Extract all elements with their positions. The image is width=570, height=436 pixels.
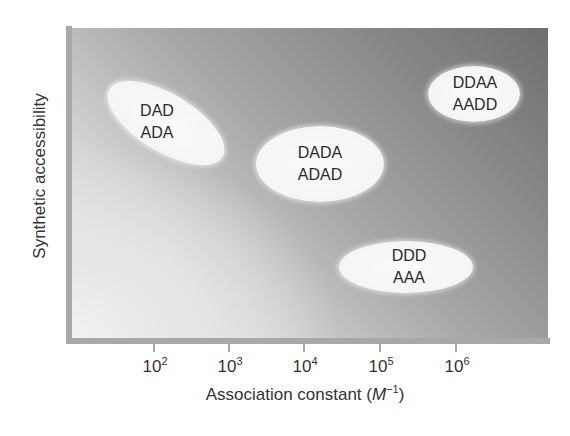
region-dada-adad-line1: DADA [298,142,342,164]
tick-exponent: 4 [311,355,317,367]
tick-exponent: 5 [387,355,393,367]
region-ddaa-aadd-line1: DDAA [453,72,497,94]
region-ddaa-aadd-label: DDAA AADD [453,72,497,116]
x-tick-1e4 [303,344,305,352]
tick-exponent: 3 [236,355,242,367]
tick-base: 10 [292,357,311,376]
x-tick-label-1e4: 104 [292,355,317,377]
region-dad-ada-label: DAD ADA [140,100,174,144]
tick-base: 10 [444,357,463,376]
x-axis-unit: M [372,385,386,404]
region-dada-adad-line2: ADAD [298,164,342,186]
y-axis-title: Synthetic accessibility [30,93,50,258]
x-tick-label-1e3: 103 [217,355,242,377]
x-axis-title-text: Association constant ( [206,385,372,404]
region-ddd-aaa-line2: AAA [392,267,427,289]
x-tick-1e2 [153,344,155,352]
tick-exponent: 2 [161,355,167,367]
y-axis-line [66,26,72,344]
region-ddd-aaa-label: DDD AAA [392,245,427,289]
region-ddd-aaa-line1: DDD [392,245,427,267]
x-tick-label-1e6: 106 [444,355,469,377]
x-tick-1e6 [455,344,457,352]
x-axis-line [66,338,550,344]
x-axis-title-suffix: ) [399,385,405,404]
region-dad-ada-line2: ADA [140,122,174,144]
x-axis-title: Association constant (M−1) [206,383,405,405]
x-tick-1e3 [228,344,230,352]
x-tick-label-1e5: 105 [368,355,393,377]
x-tick-1e5 [379,344,381,352]
x-axis-unit-exponent: −1 [386,383,399,395]
region-dad-ada-line1: DAD [140,100,174,122]
tick-exponent: 6 [463,355,469,367]
tick-base: 10 [142,357,161,376]
region-ddaa-aadd-line2: AADD [453,94,497,116]
tick-base: 10 [217,357,236,376]
x-tick-label-1e2: 102 [142,355,167,377]
region-dada-adad-label: DADA ADAD [298,142,342,186]
tick-base: 10 [368,357,387,376]
